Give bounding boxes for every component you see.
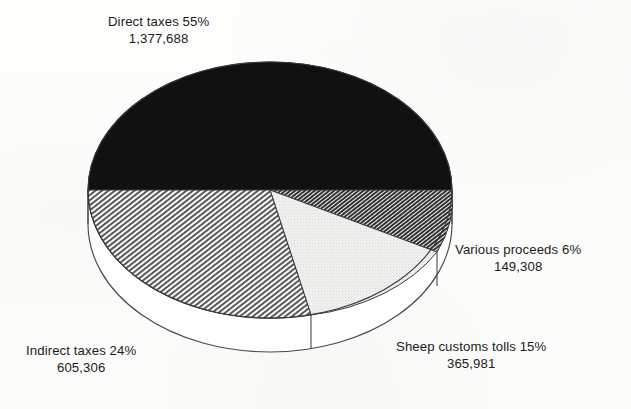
slice-label-various-proceeds-value: 149,308 xyxy=(455,259,581,276)
slice-label-sheep-customs-tolls-name: Sheep customs tolls 15% xyxy=(396,339,546,356)
slice-label-various-proceeds: Various proceeds 6% 149,308 xyxy=(455,242,581,275)
slice-label-various-proceeds-name: Various proceeds 6% xyxy=(455,242,581,259)
slice-label-direct-taxes-value: 1,377,688 xyxy=(108,31,209,48)
pie-top-face xyxy=(88,62,453,318)
slice-label-indirect-taxes-value: 605,306 xyxy=(26,360,136,377)
slice-label-sheep-customs-tolls: Sheep customs tolls 15% 365,981 xyxy=(396,339,546,372)
chart-page: Direct taxes 55% 1,377,688 Various proce… xyxy=(0,0,631,409)
slice-label-direct-taxes: Direct taxes 55% 1,377,688 xyxy=(108,14,209,47)
slice-label-sheep-customs-tolls-value: 365,981 xyxy=(396,356,546,373)
slice-label-indirect-taxes-name: Indirect taxes 24% xyxy=(26,343,136,360)
slice-label-indirect-taxes: Indirect taxes 24% 605,306 xyxy=(26,343,136,376)
slice-label-direct-taxes-name: Direct taxes 55% xyxy=(108,14,209,31)
pie-slice-direct-taxes[interactable] xyxy=(88,62,452,190)
